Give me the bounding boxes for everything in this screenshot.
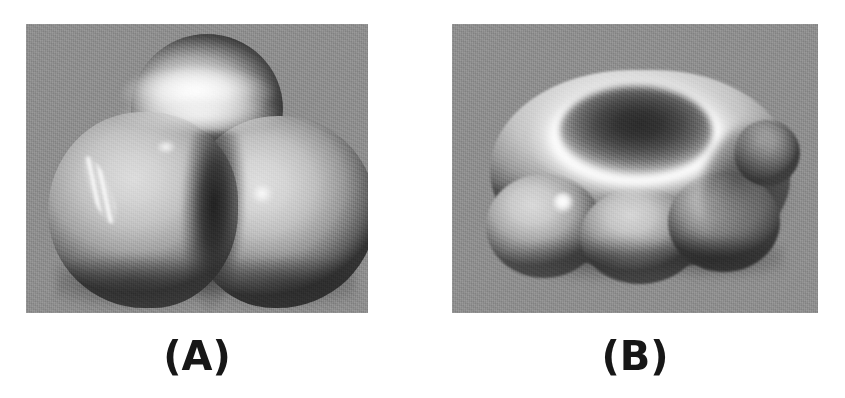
figure-container: (A) (B) <box>0 0 845 398</box>
surface-highlight-spot-2 <box>251 184 275 206</box>
panel-a-image <box>26 24 368 313</box>
surface-highlight-spot-1 <box>552 192 574 214</box>
surface-bottom-shadow <box>56 256 356 313</box>
surface-crater-interior <box>560 86 712 176</box>
surface-highlight-spot-1 <box>156 140 176 154</box>
panel-b-image <box>452 24 818 313</box>
panel-a-caption: (A) <box>26 336 368 376</box>
figure-panel-b <box>452 24 818 313</box>
figure-panel-a <box>26 24 368 313</box>
panel-b-caption: (B) <box>452 336 818 376</box>
surface-bottom-shadow <box>508 236 784 292</box>
surface-highlight-crescent-lower <box>116 98 286 132</box>
